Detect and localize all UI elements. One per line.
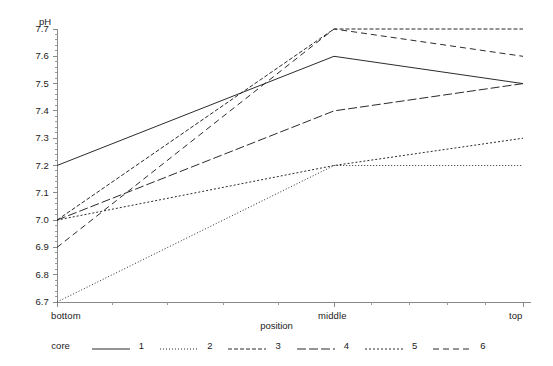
x-axis-title: position <box>0 320 553 331</box>
legend-entry-2[interactable]: 2 <box>160 340 212 351</box>
y-tick-label: 6.8 <box>19 269 49 280</box>
legend-entry-3[interactable]: 3 <box>228 340 280 351</box>
legend-entry-5[interactable]: 5 <box>365 340 417 351</box>
y-tick-label: 7.3 <box>19 132 49 143</box>
legend-line-swatch-icon <box>228 340 266 350</box>
legend-label: 6 <box>480 340 485 351</box>
legend-line-swatch-icon <box>92 340 130 350</box>
legend-label: 5 <box>412 340 417 351</box>
series-line-2 <box>57 166 523 303</box>
series-line-3 <box>57 29 523 220</box>
y-tick-label: 7.6 <box>19 50 49 61</box>
legend-label: 3 <box>275 340 280 351</box>
legend-line-swatch-icon <box>297 340 335 350</box>
legend-label: 4 <box>344 340 349 351</box>
y-tick-label: 7.0 <box>19 214 49 225</box>
axes-layer <box>53 29 531 307</box>
legend-line-swatch-icon <box>365 340 403 350</box>
series-line-1 <box>57 56 523 165</box>
y-tick-label: 6.7 <box>19 296 49 307</box>
legend-entry-1[interactable]: 1 <box>92 340 144 351</box>
legend-label: 2 <box>207 340 212 351</box>
plot-svg <box>0 0 553 366</box>
legend-title: core <box>51 340 69 351</box>
series-layer <box>57 29 523 302</box>
legend-label: 1 <box>139 340 144 351</box>
series-line-4 <box>57 84 523 221</box>
y-axis-title: pH <box>39 16 51 27</box>
legend: core 123456 <box>0 336 553 354</box>
legend-line-swatch-icon <box>160 340 198 350</box>
y-tick-label: 6.9 <box>19 241 49 252</box>
y-tick-label: 7.2 <box>19 160 49 171</box>
legend-entry-4[interactable]: 4 <box>297 340 349 351</box>
series-line-5 <box>57 138 523 220</box>
y-tick-label: 7.5 <box>19 78 49 89</box>
chart-container: 6.76.86.97.07.17.27.37.47.57.67.7 bottom… <box>0 0 553 366</box>
legend-entry-6[interactable]: 6 <box>433 340 485 351</box>
y-tick-label: 7.4 <box>19 105 49 116</box>
legend-line-swatch-icon <box>433 340 471 350</box>
y-tick-label: 7.1 <box>19 187 49 198</box>
